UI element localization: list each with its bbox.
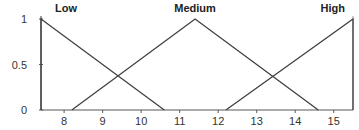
membership-function-chart: 00.5189101112131415 LowMediumHigh (0, 0, 359, 130)
series-low (41, 19, 164, 110)
y-tick-label: 0.5 (12, 59, 27, 71)
x-tick-label: 9 (100, 115, 106, 127)
y-tick-label: 1 (21, 13, 27, 25)
x-tick-label: 14 (289, 115, 301, 127)
series-label-medium: Medium (174, 2, 216, 14)
y-tick-label: 0 (21, 104, 27, 116)
series-label-low: Low (55, 2, 77, 14)
x-tick-label: 10 (135, 115, 147, 127)
x-tick-label: 13 (251, 115, 263, 127)
x-tick-label: 12 (212, 115, 224, 127)
series-labels: LowMediumHigh (55, 2, 345, 14)
x-tick-label: 8 (61, 115, 67, 127)
axes: 00.5189101112131415 (12, 13, 353, 127)
x-tick-label: 15 (328, 115, 340, 127)
series-label-high: High (321, 2, 346, 14)
series-high (226, 19, 353, 110)
series-lines (41, 19, 353, 110)
x-tick-label: 11 (174, 115, 185, 127)
series-medium (72, 19, 318, 110)
